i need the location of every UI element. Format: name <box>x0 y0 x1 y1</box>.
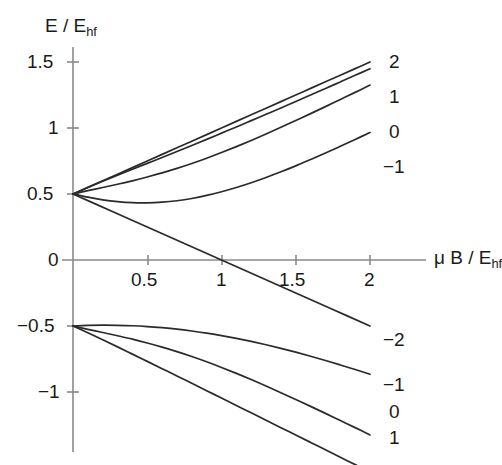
curve-label-lower-m2: −2 <box>383 330 405 349</box>
y-axis-title: E / Ehf <box>45 16 97 35</box>
curve-mf-0 <box>73 85 370 194</box>
curve-lower-0 <box>73 326 370 435</box>
y-tick-label-1: 1 <box>48 118 59 137</box>
y-tick-label-m0p5: −0.5 <box>17 316 55 335</box>
curve-group-lower <box>73 325 370 465</box>
y-axis-title-main: E / E <box>45 15 86 36</box>
curve-label-lower-1: 1 <box>389 428 400 447</box>
y-tick-label-0p5: 0.5 <box>27 184 53 203</box>
y-tick-label-0: 0 <box>48 250 59 269</box>
curve-label-upper-1: 1 <box>389 87 400 106</box>
curve-label-upper-0: 0 <box>389 122 400 141</box>
curve-lower-1 <box>73 326 370 465</box>
x-axis-title: μ B / Ehf <box>434 248 502 267</box>
curve-mf-1 <box>73 69 370 194</box>
curve-label-upper-m1: −1 <box>383 157 405 176</box>
y-tick-label-m1: −1 <box>38 382 60 401</box>
x-tick-label-1p5: 1.5 <box>279 270 305 289</box>
curve-label-upper-2: 2 <box>389 52 400 71</box>
x-tick-label-1: 1 <box>216 270 227 289</box>
curve-label-lower-m1: −1 <box>383 375 405 394</box>
x-axis-title-main: μ B / E <box>434 247 491 268</box>
curve-mf-minus1 <box>73 132 370 202</box>
curve-label-lower-0: 0 <box>389 402 400 421</box>
y-axis-title-sub: hf <box>86 24 97 39</box>
x-tick-label-0p5: 0.5 <box>131 270 157 289</box>
x-axis-title-sub: hf <box>491 256 502 271</box>
y-tick-label-1p5: 1.5 <box>27 52 53 71</box>
x-tick-label-2: 2 <box>364 270 375 289</box>
curve-mf-2 <box>73 62 370 194</box>
